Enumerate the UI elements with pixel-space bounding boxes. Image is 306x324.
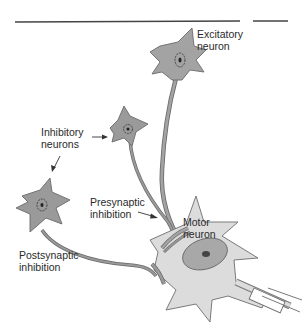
label-postsynaptic-inhibition: Postsynaptic inhibition (19, 249, 79, 273)
label-excitatory-neuron: Excitatory neuron (197, 28, 243, 52)
diagram-svg (0, 0, 306, 324)
header-rule (15, 21, 288, 22)
inhibitory-neuron-upper-body (110, 106, 148, 146)
inhibitory-axon-upper (130, 140, 173, 240)
label-motor-neuron: Motor neuron (183, 216, 216, 240)
label-presynaptic-inhibition: Presynaptic inhibition (90, 196, 145, 220)
arrow-to-lower-inhibitory (51, 156, 60, 172)
neuron-inhibition-diagram: Excitatory neuron Inhibitory neurons Pre… (0, 0, 306, 324)
label-inhibitory-neurons: Inhibitory neurons (41, 126, 84, 150)
arrow-to-upper-inhibitory (92, 135, 108, 140)
